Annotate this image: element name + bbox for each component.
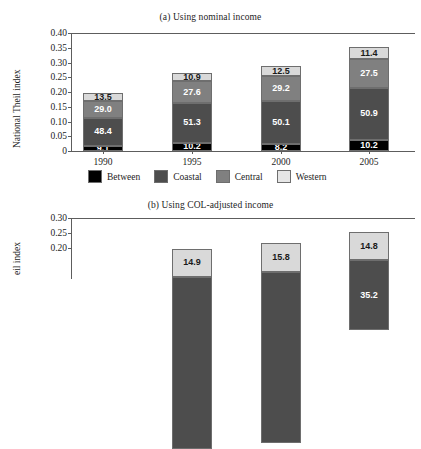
panel-a-ytick-label: 0 bbox=[25, 146, 71, 156]
panel-a-ytick-mark bbox=[68, 136, 71, 137]
panel-b-ytick-mark bbox=[68, 233, 71, 234]
panel-a-segment-western: 10.9 bbox=[172, 73, 212, 82]
panel-a-segment-label: 8.2 bbox=[275, 144, 288, 151]
panel-a-segment-western: 12.5 bbox=[261, 66, 301, 77]
panel-a-segment-label: 10.2 bbox=[360, 141, 378, 150]
legend-label-coastal: Coastal bbox=[173, 172, 202, 182]
panel-a-segment-label: 12.5 bbox=[272, 67, 290, 76]
panel-a-y-axis bbox=[71, 33, 72, 151]
panel-b-segment-coastal: 35.2 bbox=[349, 260, 389, 330]
panel-a-ytick-mark bbox=[68, 151, 71, 152]
panel-a-ytick-label: 0.20 bbox=[25, 87, 71, 97]
panel-a-segment-label: 51.3 bbox=[183, 118, 201, 127]
panel-a-ytick-mark bbox=[68, 48, 71, 49]
panel-a-ytick-label: 0.25 bbox=[25, 72, 71, 82]
panel-b-segment-label: 14.8 bbox=[360, 242, 378, 251]
legend-swatch-coastal bbox=[154, 170, 168, 183]
panel-b-plot-area: 0.200.250.3014.915.814.835.2 bbox=[71, 218, 415, 279]
panel-a-legend: Between Coastal Central Western bbox=[88, 170, 341, 183]
panel-a-xtick-label: 2000 bbox=[272, 157, 291, 167]
panel-a-segment-label: 50.1 bbox=[272, 118, 290, 127]
panel-a-segment-label: 27.6 bbox=[183, 88, 201, 97]
panel-a-xtick-mark bbox=[192, 151, 193, 154]
panel-a-ytick-label: 0.35 bbox=[25, 43, 71, 53]
panel-a-segment-label: 13.5 bbox=[94, 93, 112, 101]
panel-b-ytick-mark bbox=[68, 248, 71, 249]
legend-item-central: Central bbox=[216, 170, 263, 183]
panel-a-bar-1995: 10.927.651.310.2 bbox=[172, 73, 212, 151]
panel-b-segment-western: 15.8 bbox=[261, 243, 301, 273]
panel-a-ytick-mark bbox=[68, 77, 71, 78]
panel-a-ytick-label: 0.30 bbox=[25, 58, 71, 68]
panel-a-segment-western: 13.5 bbox=[83, 93, 123, 101]
legend-swatch-western bbox=[277, 170, 291, 183]
panel-a-segment-central: 29.0 bbox=[83, 101, 123, 118]
panel-a-segment-central: 27.5 bbox=[349, 59, 389, 88]
panel-a-segment-coastal: 48.4 bbox=[83, 118, 123, 146]
panel-a-segment-label: 29.2 bbox=[272, 84, 290, 93]
panel-a-segment-central: 27.6 bbox=[172, 81, 212, 103]
panel-a-xtick-label: 2005 bbox=[360, 157, 379, 167]
legend-item-western: Western bbox=[277, 170, 327, 183]
panel-a-ytick-label: 0.10 bbox=[25, 117, 71, 127]
panel-a-segment-central: 29.2 bbox=[261, 76, 301, 101]
panel-b-segment-continuation bbox=[261, 272, 301, 442]
panel-a-segment-western: 11.4 bbox=[349, 47, 389, 59]
panel-a-segment-label: 27.5 bbox=[360, 69, 378, 78]
panel-b-ytick-mark bbox=[68, 218, 71, 219]
panel-a-bar-2000: 12.529.250.18.2 bbox=[261, 66, 301, 151]
panel-b-segment-label: 15.8 bbox=[272, 253, 290, 262]
panel-a-x-axis bbox=[71, 151, 415, 152]
panel-b-y-axis bbox=[71, 218, 72, 279]
panel-b: (b) Using COL-adjusted income eil index … bbox=[0, 190, 421, 279]
panel-a-ytick-mark bbox=[68, 92, 71, 93]
panel-a-bar-2005: 11.427.550.910.2 bbox=[349, 47, 389, 151]
panel-b-ytick-label: 0.30 bbox=[25, 213, 71, 223]
panel-a-ytick-mark bbox=[68, 33, 71, 34]
panel-b-segment-label: 14.9 bbox=[183, 258, 201, 267]
panel-b-segment-continuation bbox=[172, 277, 212, 449]
panel-a-segment-coastal: 50.1 bbox=[261, 101, 301, 144]
panel-b-segment-western: 14.8 bbox=[349, 232, 389, 260]
panel-a-xtick-mark bbox=[281, 151, 282, 154]
panel-b-title: (b) Using COL-adjusted income bbox=[0, 200, 421, 210]
panel-a-y-axis-label: National Theil index bbox=[12, 70, 22, 148]
legend-label-western: Western bbox=[296, 172, 327, 182]
panel-a-segment-between: 8.2 bbox=[261, 144, 301, 151]
legend-swatch-between bbox=[88, 170, 102, 183]
legend-item-coastal: Coastal bbox=[154, 170, 202, 183]
panel-a-ytick-label: 0.15 bbox=[25, 102, 71, 112]
panel-a-segment-between: 10.2 bbox=[349, 140, 389, 151]
panel-a-ytick-label: 0.40 bbox=[25, 28, 71, 38]
panel-a-plot-area: 00.050.100.150.200.250.300.350.4013.529.… bbox=[71, 33, 415, 151]
panel-b-bar-1995: 14.9 bbox=[172, 249, 212, 418]
panel-a-segment-coastal: 50.9 bbox=[349, 88, 389, 141]
panel-a-segment-label: 50.9 bbox=[360, 109, 378, 118]
panel-a-title: (a) Using nominal income bbox=[0, 12, 421, 22]
panel-a-segment-label: 10.9 bbox=[183, 73, 201, 82]
panel-b-bar-2005: 14.835.2 bbox=[349, 232, 389, 418]
panel-a-ytick-mark bbox=[68, 122, 71, 123]
panel-b-y-axis-label: eil index bbox=[12, 242, 22, 275]
panel-a-xtick-label: 1990 bbox=[94, 157, 113, 167]
panel-a-xtick-label: 1995 bbox=[183, 157, 202, 167]
panel-a-ytick-label: 0.05 bbox=[25, 131, 71, 141]
legend-item-between: Between bbox=[88, 170, 140, 183]
panel-a-segment-label: 29.0 bbox=[94, 105, 112, 114]
panel-a-segment-label: 48.4 bbox=[94, 127, 112, 136]
panel-a-xtick-mark bbox=[103, 151, 104, 154]
panel-a-ytick-mark bbox=[68, 63, 71, 64]
panel-a-segment-between: 10.2 bbox=[172, 143, 212, 151]
legend-label-central: Central bbox=[235, 172, 263, 182]
panel-a-top-rule bbox=[71, 33, 415, 34]
panel-a: (a) Using nominal income National Theil … bbox=[0, 0, 421, 190]
panel-b-segment-label: 35.2 bbox=[360, 291, 378, 300]
panel-b-segment-western: 14.9 bbox=[172, 249, 212, 277]
panel-a-bar-1990: 13.529.048.49.1 bbox=[83, 93, 123, 151]
panel-b-ytick-label: 0.20 bbox=[25, 243, 71, 253]
legend-swatch-central bbox=[216, 170, 230, 183]
panel-a-xtick-mark bbox=[369, 151, 370, 154]
panel-b-ytick-label: 0.25 bbox=[25, 228, 71, 238]
panel-b-bar-2000: 15.8 bbox=[261, 243, 301, 418]
